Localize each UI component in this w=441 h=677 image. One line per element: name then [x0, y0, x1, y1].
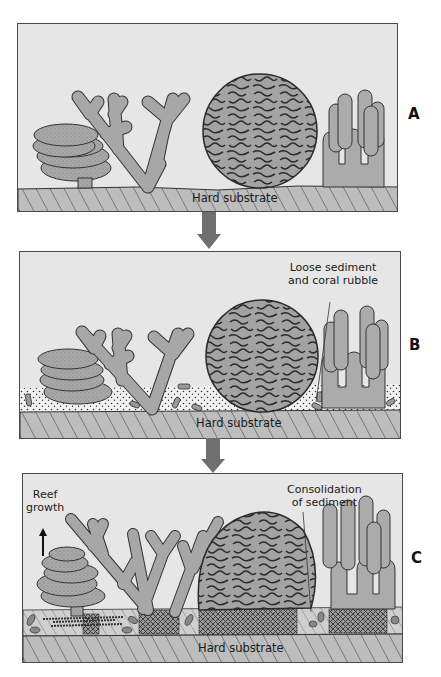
annotation-consolidation: Consolidation of sediment [287, 483, 362, 509]
reef-growth-line-2: growth [26, 501, 64, 514]
annotation-line-1: Consolidation [287, 483, 362, 496]
brain-coral [206, 300, 318, 412]
panel-label-b: B [409, 336, 420, 354]
panel-c: Consolidation of sediment Reef growth Ha… [22, 473, 403, 663]
substrate-label: Hard substrate [196, 416, 282, 430]
substrate-label: Hard substrate [198, 641, 284, 655]
panel-label-c: C [411, 549, 422, 567]
reef-growth-line-1: Reef [26, 488, 64, 501]
plate-coral [37, 547, 105, 616]
panel-label-a: A [408, 105, 420, 123]
annotation-line-1: Loose sediment [288, 261, 378, 274]
panel-a-illustration [18, 24, 398, 212]
brain-coral [203, 74, 317, 188]
pillar-coral [322, 306, 388, 408]
substrate-label: Hard substrate [192, 191, 278, 205]
panel-a: Hard substrate [17, 23, 398, 212]
pillar-coral [323, 90, 384, 187]
reef-growth-label: Reef growth [26, 488, 64, 514]
panel-b: Loose sediment and coral rubble Hard sub… [19, 251, 401, 439]
annotation-line-2: of sediment [287, 496, 362, 509]
annotation-line-2: and coral rubble [288, 274, 378, 287]
annotation-loose-sediment: Loose sediment and coral rubble [288, 261, 378, 287]
pillar-coral [323, 496, 395, 609]
down-arrow-icon [197, 212, 221, 250]
down-arrow-icon [201, 438, 225, 474]
up-arrow-icon [39, 528, 47, 556]
